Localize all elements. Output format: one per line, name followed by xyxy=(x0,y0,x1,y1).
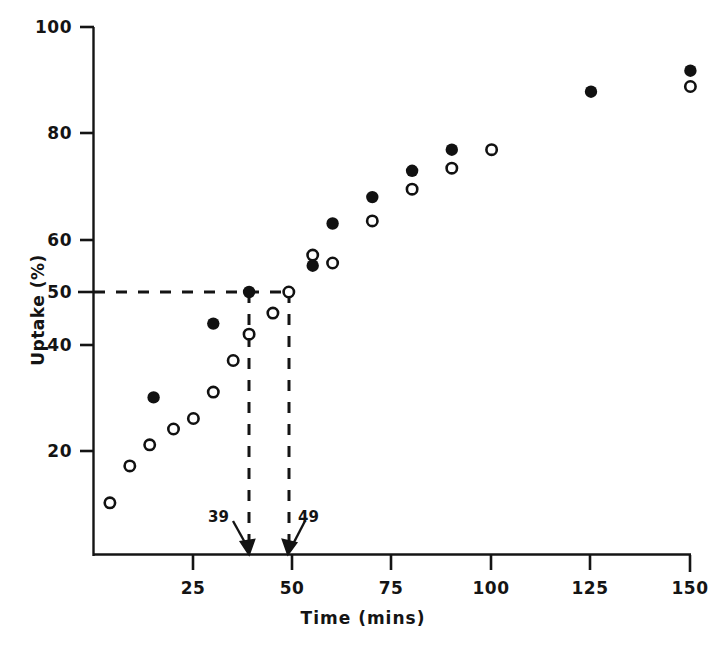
data-point-filled-circles xyxy=(446,144,458,156)
data-markers xyxy=(105,65,697,508)
scatter-plot: 100 80 60 50 40 20 25 50 75 100 125 150 … xyxy=(0,0,726,647)
x-axis-title: Time (mins) xyxy=(0,608,726,628)
data-point-open-circles xyxy=(168,424,178,434)
y-axis-title: Uptake (%) xyxy=(28,230,48,390)
data-point-filled-circles xyxy=(406,165,418,177)
data-point-open-circles xyxy=(447,163,457,173)
data-point-open-circles xyxy=(145,440,155,450)
annotation-39: 39 xyxy=(208,508,229,526)
annotation-arrows xyxy=(233,521,305,554)
y-axis-ticks xyxy=(78,27,94,451)
data-point-filled-circles xyxy=(243,286,255,298)
x-axis-ticks xyxy=(193,555,690,572)
y-tick-label-20: 20 xyxy=(0,441,72,461)
data-point-filled-circles xyxy=(147,391,159,403)
data-point-open-circles xyxy=(228,355,238,365)
x-tick-label-125: 125 xyxy=(550,578,630,598)
data-point-filled-circles xyxy=(684,65,696,77)
data-point-open-circles xyxy=(367,216,377,226)
data-point-open-circles xyxy=(284,287,294,297)
arrow-39-head xyxy=(241,540,254,554)
data-point-open-circles xyxy=(125,461,135,471)
y-tick-label-80: 80 xyxy=(0,123,72,143)
annotation-49: 49 xyxy=(298,508,319,526)
data-point-open-circles xyxy=(208,387,218,397)
arrow-49-head xyxy=(283,540,296,554)
data-point-open-circles xyxy=(308,250,318,260)
x-tick-label-150: 150 xyxy=(650,578,726,598)
data-point-filled-circles xyxy=(585,86,597,98)
x-tick-label-75: 75 xyxy=(351,578,431,598)
x-tick-label-100: 100 xyxy=(451,578,531,598)
data-point-open-circles xyxy=(685,81,695,91)
data-point-open-circles xyxy=(486,145,496,155)
plot-canvas xyxy=(0,0,726,647)
data-point-filled-circles xyxy=(207,317,219,329)
data-point-open-circles xyxy=(407,184,417,194)
data-point-open-circles xyxy=(327,258,337,268)
data-point-filled-circles xyxy=(326,217,338,229)
data-point-open-circles xyxy=(244,329,254,339)
data-point-open-circles xyxy=(105,498,115,508)
data-point-filled-circles xyxy=(366,191,378,203)
y-tick-label-100: 100 xyxy=(0,17,72,37)
x-tick-label-50: 50 xyxy=(252,578,332,598)
x-tick-label-25: 25 xyxy=(153,578,233,598)
data-point-open-circles xyxy=(268,308,278,318)
data-point-open-circles xyxy=(188,413,198,423)
